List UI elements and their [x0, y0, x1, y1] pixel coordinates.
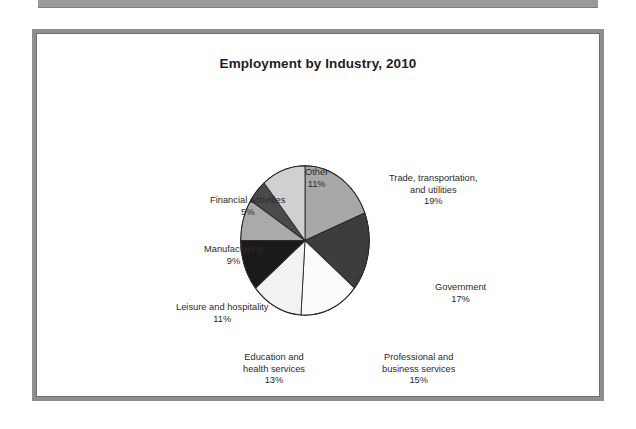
figure-frame: Employment by Industry, 2010 Trade, tran… [32, 29, 604, 401]
figure-inner-border: Employment by Industry, 2010 Trade, tran… [36, 33, 600, 397]
slice-label-line2: business services [382, 364, 455, 376]
slice-label-education-health-services: Education and health services 13% [243, 352, 305, 387]
scan-top-bar [38, 0, 598, 8]
slice-label-line1: Leisure and hospitality [176, 302, 269, 314]
slice-label-trade-transportation-utilities: Trade, transportation, and utilities 19% [389, 173, 478, 208]
slice-label-line1: Financial activities [210, 195, 285, 207]
slice-percent: 11% [176, 314, 269, 326]
slice-label-line1: Trade, transportation, [389, 173, 478, 185]
slice-percent: 15% [382, 375, 455, 387]
chart-title: Employment by Industry, 2010 [37, 56, 599, 71]
slice-percent: 17% [435, 294, 486, 306]
slice-label-line1: Other [305, 167, 328, 179]
slice-label-other: Other 11% [305, 167, 328, 190]
slice-label-line1: Manufacturing [204, 244, 263, 256]
slice-percent: 19% [389, 196, 478, 208]
slice-percent: 5% [210, 207, 285, 219]
slice-label-financial-activities: Financial activities 5% [210, 195, 285, 218]
slice-percent: 9% [204, 256, 263, 268]
slice-label-government: Government 17% [435, 282, 486, 305]
slice-label-leisure-hospitality: Leisure and hospitality 11% [176, 302, 269, 325]
slice-label-professional-business-services: Professional and business services 15% [382, 352, 455, 387]
slice-label-manufacturing: Manufacturing 9% [204, 244, 263, 267]
slice-percent: 11% [305, 179, 328, 191]
slice-percent: 13% [243, 375, 305, 387]
slice-label-line2: health services [243, 364, 305, 376]
slice-label-line2: and utilities [389, 185, 478, 197]
slice-label-line1: Education and [243, 352, 305, 364]
slice-label-line1: Professional and [382, 352, 455, 364]
slice-label-line1: Government [435, 282, 486, 294]
